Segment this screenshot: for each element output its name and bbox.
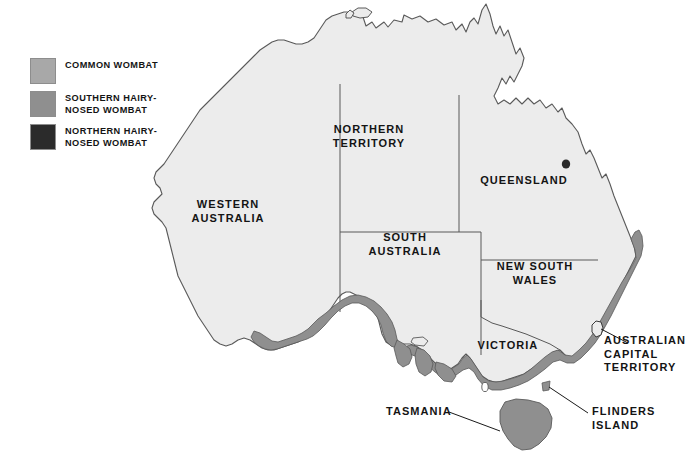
legend-item-northern-hairy-nosed-wombat: NORTHERN HAIRY- NOSED WOMBAT [30, 124, 220, 150]
common-wombat-range-tasmania [500, 399, 552, 450]
map-label-queensland: QUEENSLAND [460, 174, 588, 188]
legend-swatch-northern-hairy-nosed-wombat [30, 124, 56, 150]
map-label-new-south-wales: NEW SOUTH WALES [474, 260, 596, 287]
common-wombat-range-flinders-island [542, 381, 550, 391]
mainland-landmass-group [152, 4, 636, 382]
map-legend: COMMON WOMBAT SOUTHERN HAIRY- NOSED WOMB… [30, 58, 220, 157]
leader-line-flinders-island [549, 387, 588, 413]
mainland-australia-shape [152, 4, 636, 382]
legend-item-southern-hairy-nosed-wombat: SOUTHERN HAIRY- NOSED WOMBAT [30, 91, 220, 117]
map-label-victoria: VICTORIA [462, 339, 554, 353]
map-label-south-australia: SOUTH AUSTRALIA [350, 231, 460, 258]
northern-hairy-nosed-wombat-dot [562, 159, 570, 168]
legend-label-northern-hairy-nosed-wombat: NORTHERN HAIRY- NOSED WOMBAT [65, 124, 157, 149]
king-island-shape [482, 382, 488, 391]
legend-label-southern-hairy-nosed-wombat: SOUTHERN HAIRY- NOSED WOMBAT [65, 91, 157, 116]
map-label-flinders-island: FLINDERS ISLAND [592, 405, 688, 432]
legend-label-common-wombat: COMMON WOMBAT [65, 58, 158, 72]
legend-swatch-southern-hairy-nosed-wombat [30, 91, 56, 117]
legend-item-common-wombat: COMMON WOMBAT [30, 58, 220, 84]
tiwi-islands-shape [352, 8, 372, 18]
wombat-distribution-map: COMMON WOMBAT SOUTHERN HAIRY- NOSED WOMB… [0, 0, 700, 464]
map-label-tasmania: TASMANIA [386, 405, 478, 419]
map-label-northern-territory: NORTHERN TERRITORY [311, 123, 427, 150]
legend-swatch-common-wombat [30, 58, 56, 84]
map-label-australian-capital-territory: AUSTRALIAN CAPITAL TERRITORY [604, 334, 700, 375]
map-label-western-australia: WESTERN AUSTRALIA [168, 198, 288, 225]
